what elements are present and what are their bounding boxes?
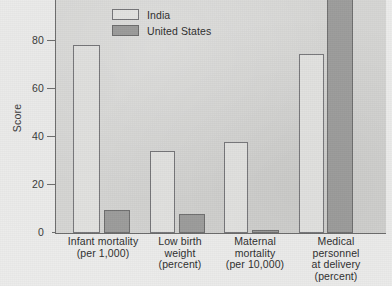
- y-tick-label-80: 80: [18, 34, 44, 46]
- bar-us-infant-mortality: [104, 210, 130, 233]
- y-tick-0: [52, 232, 56, 233]
- y-axis-title: Score: [11, 88, 23, 148]
- legend-item-india: India: [112, 8, 211, 21]
- category-label-medical-personnel: Medical personnel at delivery (percent): [284, 236, 388, 282]
- legend-label-united-states: United States: [147, 25, 211, 37]
- category-line: (percent): [284, 271, 388, 283]
- y-tick-label-0: 0: [18, 226, 44, 238]
- y-tick-20: [47, 184, 56, 185]
- x-axis-line: [55, 233, 386, 234]
- bar-india-low-birth-weight: [150, 151, 175, 233]
- bar-india-medical-personnel: [299, 54, 324, 233]
- y-axis-line: [55, 0, 56, 234]
- legend-swatch-india: [112, 9, 139, 20]
- bar-chart-figure: 80 60 40 20 0 Score India United States …: [0, 0, 392, 286]
- y-tick-80: [47, 40, 56, 41]
- bar-india-infant-mortality: [73, 45, 100, 233]
- y-tick-60: [47, 88, 56, 89]
- plot-area: [56, 0, 386, 233]
- x-axis-category-labels: Infant mortality (per 1,000) Low birth w…: [56, 236, 386, 286]
- chart-legend: India United States: [112, 8, 211, 40]
- legend-item-united-states: United States: [112, 24, 211, 37]
- legend-swatch-united-states: [112, 25, 139, 36]
- bar-india-maternal-mortality: [224, 142, 248, 233]
- bar-us-low-birth-weight: [179, 214, 205, 233]
- bar-us-medical-personnel: [327, 0, 353, 233]
- y-tick-label-20: 20: [18, 178, 44, 190]
- legend-label-india: India: [147, 9, 170, 21]
- category-line: Medical: [284, 236, 388, 248]
- y-tick-40: [47, 136, 56, 137]
